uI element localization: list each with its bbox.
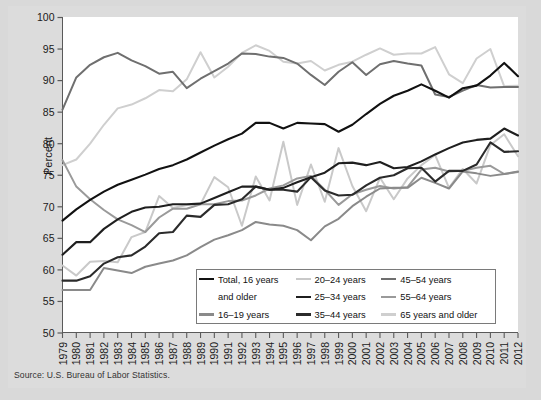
legend-swatch-icon (296, 296, 311, 298)
legend-label: and older (218, 292, 257, 302)
legend-swatch-icon (199, 313, 214, 315)
x-tick-label: 1980 (70, 342, 82, 366)
x-tick-label: 1994 (264, 342, 276, 366)
legend-label: 20–24 years (315, 274, 366, 284)
legend-row: Total, 16 years20–24 years45–54 years (197, 270, 495, 288)
legend-item[interactable]: Total, 16 years (197, 270, 294, 288)
legend-swatch-icon (381, 296, 396, 298)
x-tick-label: 1997 (305, 342, 317, 366)
x-tick-label: 1992 (236, 342, 248, 366)
y-tick-label: 95 (43, 43, 55, 55)
x-tick-label: 2012 (512, 342, 524, 366)
series-line (63, 53, 519, 110)
x-tick-label: 1996 (291, 342, 303, 366)
legend-item[interactable]: 35–44 years (294, 305, 380, 323)
legend-row: and older25–34 years55–64 years (197, 288, 495, 306)
legend-item[interactable]: 25–34 years (294, 288, 380, 306)
legend-label: 16–19 years (218, 309, 269, 319)
legend-row: 16–19 years35–44 years65 years and older (197, 305, 495, 323)
x-tick-label: 2001 (360, 342, 372, 366)
legend-item[interactable]: 20–24 years (294, 270, 380, 288)
legend-label: 65 years and older (400, 309, 477, 319)
x-tick-label: 1982 (98, 342, 110, 366)
legend-swatch-icon (296, 313, 311, 315)
y-tick-label: 60 (43, 264, 55, 276)
legend-item[interactable]: 65 years and older (379, 305, 495, 323)
x-tick-label: 1991 (222, 342, 234, 366)
y-tick-label: 55 (43, 295, 55, 307)
x-tick-label: 2005 (415, 342, 427, 366)
x-tick-label: 2008 (457, 342, 469, 366)
legend-label: 45–54 years (400, 274, 451, 284)
x-tick-label: 1983 (112, 342, 124, 366)
x-tick-label: 1990 (208, 342, 220, 366)
x-tick-label: 2004 (402, 342, 414, 366)
figure-container: 50556065707580859095100 1979198019811982… (0, 0, 541, 400)
legend-label: 55–64 years (400, 292, 451, 302)
x-tick-label: 1986 (153, 342, 165, 366)
x-tick-label: 1984 (126, 342, 138, 366)
legend-table: Total, 16 years20–24 years45–54 yearsand… (197, 270, 495, 323)
legend-swatch-icon (381, 313, 396, 315)
x-tick-label: 2002 (374, 342, 386, 366)
chart-svg-wrapper: 50556065707580859095100 1979198019811982… (0, 0, 541, 400)
x-tick-label: 1987 (167, 342, 179, 366)
source-note: Source: U.S. Bureau of Labor Statistics. (14, 370, 170, 380)
legend-item[interactable]: and older (197, 288, 294, 306)
legend-swatch-icon (199, 278, 214, 280)
series-line (63, 134, 519, 275)
x-tick-label: 2006 (429, 342, 441, 366)
x-tick-label: 1981 (84, 342, 96, 366)
x-tick-label: 1999 (333, 342, 345, 366)
y-tick-label: 90 (43, 74, 55, 86)
x-tick-label: 2003 (388, 342, 400, 366)
series-line (63, 63, 519, 221)
x-tick-label: 1995 (277, 342, 289, 366)
legend-item[interactable]: 16–19 years (197, 305, 294, 323)
line-chart: 50556065707580859095100 1979198019811982… (0, 0, 541, 400)
x-tick-label: 2000 (346, 342, 358, 366)
data-series-lines (63, 45, 519, 290)
y-tick-label: 100 (37, 11, 55, 23)
x-tick-label: 2007 (443, 342, 455, 366)
x-tick-label: 1985 (139, 342, 151, 366)
x-axis-ticks (63, 333, 519, 338)
legend-label: Total, 16 years (218, 274, 278, 284)
y-axis-title: Percent (42, 96, 54, 216)
y-tick-label: 50 (43, 327, 55, 339)
legend-swatch-icon (296, 278, 311, 280)
y-tick-label: 65 (43, 232, 55, 244)
x-tick-label: 2011 (498, 342, 510, 365)
x-axis-labels: 1979198019811982198319841985198619871988… (57, 342, 525, 366)
x-tick-label: 1998 (319, 342, 331, 366)
x-tick-label: 1993 (250, 342, 262, 366)
chart-legend: Total, 16 years20–24 years45–54 yearsand… (196, 269, 496, 324)
x-tick-label: 1979 (57, 342, 69, 366)
legend-label: 35–44 years (315, 309, 366, 319)
legend-item[interactable]: 45–54 years (379, 270, 495, 288)
legend-item[interactable]: 55–64 years (379, 288, 495, 306)
legend-swatch-icon (381, 278, 396, 280)
legend-label: 25–34 years (315, 292, 366, 302)
x-tick-label: 1988 (181, 342, 193, 366)
x-tick-label: 1989 (195, 342, 207, 366)
x-tick-label: 2009 (471, 342, 483, 366)
x-tick-label: 2010 (484, 342, 496, 366)
